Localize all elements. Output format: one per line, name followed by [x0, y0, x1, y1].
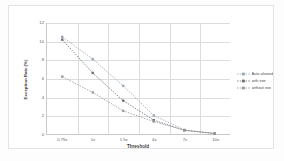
series-layer: [47, 23, 230, 134]
legend-item[interactable]: Auto aligned: [237, 70, 284, 77]
series-line: [62, 77, 215, 134]
data-point-marker: [122, 110, 124, 112]
legend-item[interactable]: without eye: [237, 84, 284, 91]
legend-item-label: Auto aligned: [252, 72, 274, 76]
legend-marker-icon: [237, 78, 250, 84]
y-tick-label: 10: [39, 40, 44, 44]
x-tick-label: 0.75x: [57, 138, 67, 142]
data-point-marker: [122, 100, 124, 102]
y-axis-title: Exception Rate (%): [21, 23, 31, 135]
data-point-marker: [92, 72, 94, 74]
x-tick-label: 1.5x: [120, 138, 128, 142]
y-tick-label: 12: [39, 21, 44, 25]
plot-area: 121086420 0.75x1x1.5x4x7x10x: [46, 23, 230, 135]
legend-item[interactable]: with eye: [237, 77, 284, 84]
legend-marker-icon: [237, 85, 250, 91]
legend-item-label: without eye: [252, 86, 272, 90]
data-point-marker: [153, 114, 155, 116]
data-point-marker: [61, 38, 63, 40]
x-tick-label: 10x: [212, 138, 219, 142]
data-point-marker: [122, 85, 124, 87]
data-point-marker: [61, 75, 63, 77]
series-line: [62, 37, 215, 134]
chart-legend: Auto alignedwith eyewithout eye: [237, 70, 284, 91]
data-point-marker: [153, 120, 155, 122]
y-tick-label: 8: [42, 58, 44, 62]
y-tick-label: 6: [42, 77, 44, 81]
y-tick-label: 4: [42, 96, 44, 100]
x-tick-label: 1x: [91, 138, 95, 142]
data-point-marker: [92, 58, 94, 60]
y-tick-label: 0: [42, 133, 44, 137]
legend-item-label: with eye: [252, 79, 266, 83]
data-point-marker: [92, 91, 94, 93]
chart-screenshot: Exception Rate (%) 121086420 0.75x1x1.5x…: [0, 0, 284, 161]
chart-object-frame: Exception Rate (%) 121086420 0.75x1x1.5x…: [8, 5, 274, 149]
x-tick-label: 7x: [183, 138, 187, 142]
y-axis-title-text: Exception Rate (%): [24, 59, 29, 99]
x-tick-label: 4x: [152, 138, 156, 142]
x-axis-title: Threshold: [46, 144, 230, 149]
legend-marker-icon: [237, 71, 250, 77]
data-point-marker: [183, 129, 185, 131]
data-point-marker: [214, 132, 216, 134]
y-tick-label: 2: [42, 114, 44, 118]
data-point-marker: [61, 36, 63, 38]
